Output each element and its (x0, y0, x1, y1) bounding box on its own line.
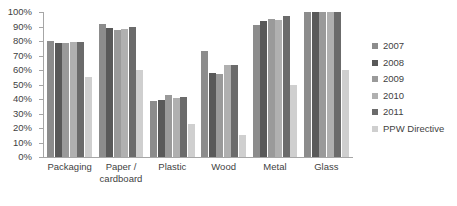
y-axis-tick (39, 70, 43, 71)
x-axis-category-label: Plastic (147, 161, 198, 205)
y-axis-tick-label: 50% (13, 80, 32, 90)
x-axis-category-label: Glass (301, 161, 352, 205)
y-axis-tick (39, 157, 43, 158)
x-axis-labels: PackagingPaper / cardboardPlasticWoodMet… (44, 161, 352, 205)
bar (55, 43, 62, 157)
bar (334, 12, 341, 157)
y-axis-tick-label: 10% (13, 138, 32, 148)
legend-label: 2010 (383, 91, 404, 101)
bar (188, 124, 195, 157)
x-axis-category-label: Wood (198, 161, 249, 205)
y-axis-tick-label: 40% (13, 94, 32, 104)
bar (201, 51, 208, 157)
bar (136, 70, 143, 157)
bar (158, 100, 165, 157)
bar (77, 42, 84, 157)
bar (114, 30, 121, 157)
bar (47, 41, 54, 157)
bar (180, 97, 187, 157)
y-axis-tick (39, 27, 43, 28)
y-axis-tick-label: 60% (13, 65, 32, 75)
legend-item: 2009 (372, 71, 457, 88)
bar-group (198, 12, 249, 157)
plot-area (44, 12, 352, 157)
x-axis-line (43, 157, 353, 158)
bar (342, 70, 349, 157)
legend-label: 2011 (383, 107, 403, 117)
bar (85, 77, 92, 157)
legend-item: PPW Directive (372, 121, 457, 138)
bar (173, 98, 180, 157)
y-axis-tick-label: 30% (13, 109, 32, 119)
bar-group (249, 12, 300, 157)
bar (268, 19, 275, 157)
bar (312, 12, 319, 157)
legend-item: 2010 (372, 88, 457, 105)
y-axis: 100%90%80%70%60%50%40%30%20%10%0% (0, 0, 40, 206)
bar (253, 25, 260, 157)
bar (129, 27, 136, 158)
bar (62, 43, 69, 157)
legend-label: 2008 (383, 58, 404, 68)
legend-swatch-icon (372, 43, 378, 49)
bar (106, 28, 113, 157)
bar (99, 24, 106, 157)
x-axis-category-label: Metal (249, 161, 300, 205)
bar (121, 29, 128, 157)
bar-group (95, 12, 146, 157)
legend-swatch-icon (372, 76, 378, 82)
y-axis-tick (39, 128, 43, 129)
bar (165, 95, 172, 157)
bar-group (44, 12, 95, 157)
y-axis-tick-label: 80% (13, 36, 32, 46)
bar (319, 12, 326, 157)
bar (150, 101, 157, 157)
bar (70, 42, 77, 157)
bar (224, 65, 231, 157)
bar (290, 85, 297, 157)
legend-label: 2007 (383, 41, 404, 51)
legend-swatch-icon (372, 60, 378, 66)
bar (209, 73, 216, 157)
y-axis-tick-label: 100% (8, 7, 32, 17)
y-axis-tick (39, 99, 43, 100)
y-axis-tick (39, 143, 43, 144)
legend-swatch-icon (372, 109, 378, 115)
bar-chart: 100%90%80%70%60%50%40%30%20%10%0% Packag… (0, 0, 457, 206)
legend-swatch-icon (372, 93, 378, 99)
y-axis-tick-label: 70% (13, 51, 32, 61)
y-axis-tick (39, 114, 43, 115)
bar (216, 74, 223, 157)
bar (304, 12, 311, 157)
legend-swatch-icon (372, 126, 378, 132)
legend: 20072008200920102011PPW Directive (372, 38, 457, 137)
legend-item: 2008 (372, 55, 457, 72)
bar (275, 20, 282, 157)
y-axis-tick-label: 0% (18, 152, 32, 162)
legend-item: 2011 (372, 104, 457, 121)
bar (260, 21, 267, 157)
x-axis-category-label: Paper / cardboard (95, 161, 146, 205)
bar (283, 16, 290, 157)
bar (239, 135, 246, 157)
y-axis-tick (39, 56, 43, 57)
legend-label: 2009 (383, 74, 404, 84)
y-axis-tick-label: 20% (13, 123, 32, 133)
bar (327, 12, 334, 157)
y-axis-tick-label: 90% (13, 22, 32, 32)
y-axis-tick (39, 85, 43, 86)
legend-item: 2007 (372, 38, 457, 55)
y-axis-tick (39, 12, 43, 13)
x-axis-category-label: Packaging (44, 161, 95, 205)
bar-group (301, 12, 352, 157)
bar (231, 65, 238, 157)
bar-group (147, 12, 198, 157)
legend-label: PPW Directive (383, 124, 444, 134)
y-axis-tick (39, 41, 43, 42)
